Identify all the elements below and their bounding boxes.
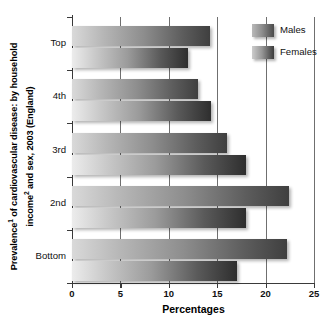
y-axis-label-4th: 4th bbox=[0, 90, 66, 101]
x-axis-tick-label-10: 10 bbox=[164, 288, 175, 299]
bar-females-2nd bbox=[72, 208, 246, 228]
legend-item-males: Males bbox=[252, 22, 330, 40]
y-axis-label-3rd: 3rd bbox=[0, 144, 66, 155]
bar-females-bottom bbox=[72, 261, 237, 281]
y-axis-label-top: Top bbox=[0, 37, 66, 48]
legend-label-males: Males bbox=[280, 24, 306, 35]
bar-males-4th bbox=[72, 79, 198, 99]
x-axis-title: Percentages bbox=[72, 303, 315, 315]
x-axis-tick-label-25: 25 bbox=[309, 288, 320, 299]
x-axis-tick-label-0: 0 bbox=[69, 288, 74, 299]
legend-label-females: Females bbox=[280, 46, 317, 57]
bar-females-top bbox=[72, 48, 188, 68]
y-axis-label-2nd: 2nd bbox=[0, 197, 66, 208]
legend-item-females: Females bbox=[252, 44, 330, 62]
legend-swatch-females-icon bbox=[252, 46, 274, 59]
bar-males-3rd bbox=[72, 133, 227, 153]
x-axis-line bbox=[72, 283, 315, 284]
x-axis-tick-label-15: 15 bbox=[212, 288, 223, 299]
bar-males-2nd bbox=[72, 186, 289, 206]
legend: Males Females bbox=[252, 22, 330, 66]
bar-males-bottom bbox=[72, 239, 287, 259]
chart-title-line-1: Prevalence1 of cardiovascular disease: b… bbox=[10, 43, 20, 271]
bar-females-4th bbox=[72, 101, 211, 121]
bar-males-top bbox=[72, 26, 210, 46]
legend-swatch-males-icon bbox=[252, 24, 274, 37]
x-axis-tick-label-20: 20 bbox=[260, 288, 271, 299]
chart-container: Prevalence1 of cardiovascular disease: b… bbox=[0, 0, 333, 331]
bar-females-3rd bbox=[72, 155, 246, 175]
y-axis-label-bottom: Bottom bbox=[0, 250, 66, 261]
x-axis-tick-label-5: 5 bbox=[118, 288, 123, 299]
